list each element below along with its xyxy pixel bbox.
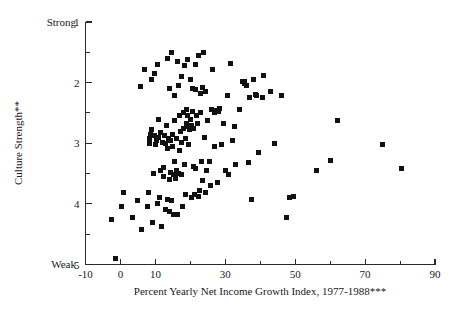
data-point xyxy=(169,198,174,203)
data-point xyxy=(170,144,175,149)
data-point xyxy=(177,148,182,153)
data-point xyxy=(135,198,140,203)
data-point xyxy=(230,138,235,143)
y-axis-strong-label: Strong xyxy=(47,16,77,28)
data-point xyxy=(156,117,161,122)
data-point xyxy=(244,83,249,88)
data-point xyxy=(175,212,180,217)
data-point xyxy=(139,227,144,232)
data-point xyxy=(219,142,224,147)
data-point xyxy=(202,135,207,140)
data-point xyxy=(184,107,189,112)
data-point xyxy=(113,256,118,261)
data-point xyxy=(203,190,208,195)
data-point xyxy=(179,172,184,177)
y-axis-weak-label: Weak xyxy=(51,258,76,270)
x-tick-label: 50 xyxy=(290,268,302,280)
data-point xyxy=(180,204,185,209)
data-point xyxy=(146,190,151,195)
data-point xyxy=(237,107,242,112)
data-point xyxy=(168,138,173,143)
data-point xyxy=(399,166,404,171)
data-point xyxy=(207,159,212,164)
data-point xyxy=(204,168,209,173)
data-point xyxy=(165,56,170,61)
data-point xyxy=(164,123,169,128)
data-point xyxy=(251,77,256,82)
data-point xyxy=(247,95,252,100)
data-point xyxy=(174,136,179,141)
data-point xyxy=(188,77,193,82)
data-point xyxy=(185,57,190,62)
data-point xyxy=(198,91,203,96)
data-point xyxy=(109,217,114,222)
data-point xyxy=(147,141,152,146)
data-point xyxy=(155,201,160,206)
data-point xyxy=(254,93,259,98)
data-point xyxy=(196,194,201,199)
data-point xyxy=(272,141,277,146)
data-point xyxy=(314,168,319,173)
data-point xyxy=(149,127,154,132)
data-point xyxy=(183,136,188,141)
x-tick-label: 70 xyxy=(360,268,372,280)
y-tick-label: 3 xyxy=(74,137,80,149)
data-point xyxy=(335,118,340,123)
data-point xyxy=(210,67,215,72)
data-point xyxy=(291,194,296,199)
data-point xyxy=(161,165,166,170)
data-point xyxy=(172,93,177,98)
data-point xyxy=(176,83,181,88)
x-tick-label: 10 xyxy=(150,268,162,280)
data-point xyxy=(149,77,154,82)
data-point xyxy=(179,74,184,79)
data-point xyxy=(151,171,156,176)
data-point xyxy=(145,204,150,209)
data-point xyxy=(196,53,201,58)
data-point xyxy=(256,150,261,155)
data-point xyxy=(198,110,203,115)
x-tick-label: 30 xyxy=(220,268,232,280)
data-point xyxy=(193,166,198,171)
data-point xyxy=(121,190,126,195)
data-point xyxy=(156,135,161,140)
data-point xyxy=(279,93,284,98)
data-point xyxy=(232,124,237,129)
data-point xyxy=(200,178,205,183)
data-point xyxy=(142,67,147,72)
data-point xyxy=(193,87,198,92)
y-axis-title: Culture Strength** xyxy=(12,101,24,185)
x-tick-label: 90 xyxy=(430,268,442,280)
data-point xyxy=(217,106,222,111)
x-tick-label: 0 xyxy=(118,268,124,280)
y-tick-label: 2 xyxy=(74,77,80,89)
data-point xyxy=(193,62,198,67)
data-point xyxy=(208,183,213,188)
data-point xyxy=(183,192,188,197)
data-point xyxy=(197,188,202,193)
data-point xyxy=(225,93,230,98)
data-point xyxy=(172,159,177,164)
data-point xyxy=(169,50,174,55)
scatter-plot-figure: 12345 -1001030507090 Strong Weak Culture… xyxy=(0,0,454,313)
data-point xyxy=(215,180,220,185)
data-point xyxy=(201,50,206,55)
data-point xyxy=(260,95,265,100)
data-point xyxy=(119,204,124,209)
data-point xyxy=(228,61,233,66)
x-tick-label: -10 xyxy=(78,268,93,280)
data-point xyxy=(182,162,187,167)
data-point xyxy=(328,158,333,163)
data-point xyxy=(212,144,217,149)
data-point xyxy=(233,162,238,167)
data-point xyxy=(175,59,180,64)
x-axis-title: Percent Yearly Net Income Growth Index, … xyxy=(134,285,386,297)
data-point xyxy=(261,73,266,78)
data-point xyxy=(167,86,172,91)
data-point xyxy=(205,118,210,123)
data-point xyxy=(203,89,208,94)
data-point xyxy=(172,118,177,123)
data-point xyxy=(246,160,251,165)
data-point xyxy=(157,195,162,200)
data-point xyxy=(150,220,155,225)
